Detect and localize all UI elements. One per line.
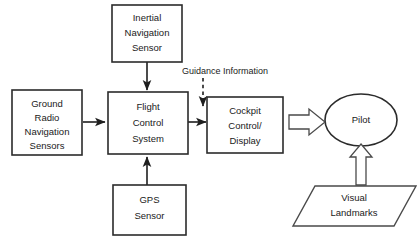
node-label-line: Ground: [31, 98, 63, 109]
node-pilot[interactable]: Pilot: [325, 94, 397, 146]
node-label-line: Sensor: [132, 42, 162, 53]
node-label-line: Landmarks: [331, 207, 378, 218]
node-label-line: Display: [229, 135, 260, 146]
node-label-line: Control: [133, 117, 164, 128]
node-label-line: Navigation: [25, 126, 70, 137]
node-flight-control-system[interactable]: Flight Control System: [108, 92, 188, 154]
node-ground-radio-navigation-sensors[interactable]: Ground Radio Navigation Sensors: [12, 90, 82, 155]
node-inertial-navigation-sensor[interactable]: Inertial Navigation Sensor: [112, 5, 182, 62]
node-label-line: System: [132, 133, 164, 144]
node-label-line: Flight: [136, 101, 160, 112]
diagram-svg: Inertial Navigation Sensor Ground Radio …: [0, 0, 418, 244]
node-label-line: Sensor: [134, 210, 164, 221]
node-cockpit-control-display[interactable]: Cockpit Control/ Display: [207, 97, 283, 153]
block-arrow-cockpit-to-pilot: [289, 109, 325, 135]
node-label-line: Sensors: [30, 140, 65, 151]
node-label-line: Inertial: [133, 12, 162, 23]
guidance-information-label: Guidance Information: [182, 66, 268, 76]
diagram-canvas: Inertial Navigation Sensor Ground Radio …: [0, 0, 418, 244]
node-label-line: Radio: [35, 112, 60, 123]
node-gps-sensor[interactable]: GPS Sensor: [113, 185, 186, 235]
node-label-line: Pilot: [352, 114, 371, 125]
edge-label-guidance-information: Guidance Information: [182, 66, 268, 76]
node-label-line: GPS: [139, 194, 159, 205]
node-label-line: Cockpit: [229, 105, 261, 116]
node-label-line: Navigation: [125, 27, 170, 38]
node-label-line: Control/: [228, 120, 262, 131]
node-visual-landmarks[interactable]: Visual Landmarks: [293, 186, 416, 226]
node-label-line: Visual: [341, 192, 367, 203]
block-arrow-visual-landmarks-to-pilot: [350, 144, 372, 185]
